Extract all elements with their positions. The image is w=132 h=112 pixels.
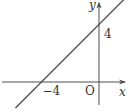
coordinate-plane-figure: y x O 4 −4 <box>0 0 132 112</box>
graph-svg: y x O 4 −4 <box>0 0 132 112</box>
x-tick-label: −4 <box>42 84 60 98</box>
y-axis-label: y <box>88 0 96 12</box>
y-tick-label: 4 <box>104 27 112 41</box>
origin-label: O <box>85 84 95 98</box>
function-line <box>15 0 128 108</box>
x-axis-label: x <box>119 85 126 99</box>
